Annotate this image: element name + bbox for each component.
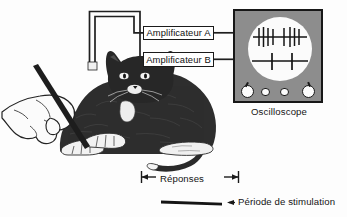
amplifier-a-label: Amplificateur A [146,27,210,38]
oscilloscope-screen [248,17,312,81]
figure-nerve-recording-diagram: Amplificateur A Amplificateur B [0,0,347,217]
amplifier-b-box: Amplificateur B [143,52,214,67]
amplifier-b-label: Amplificateur B [146,54,211,65]
stimulation-arrow-head [227,200,234,205]
oscilloscope-knob-small-right[interactable] [280,88,289,97]
cat-pupil-left [123,73,126,78]
cat-chest-patch [120,101,135,122]
oscilloscope-trace-b [252,53,308,70]
oscilloscope-knob-large-left[interactable] [241,85,254,98]
cat-tail-tip [147,164,158,170]
cat-pupil-right [144,73,147,78]
responses-arrow-right-head [232,174,239,180]
responses-label: Réponses [160,173,204,184]
oscilloscope-traces [248,17,312,81]
scope-input-wire-group [214,33,233,60]
oscilloscope-knob-small-left[interactable] [261,88,270,97]
stimulation-period-label: Période de stimulation [238,196,335,207]
cat-illustration [60,51,216,172]
cat-head-electrode [88,62,97,70]
amplifier-a-box: Amplificateur A [143,26,214,41]
oscilloscope-trace-a [253,27,307,47]
oscilloscope-unit [233,9,323,103]
oscilloscope-knob-large-right[interactable] [302,85,315,98]
oscilloscope-caption: Oscilloscope [232,106,326,117]
responses-arrow-left-head [142,174,149,180]
stimulation-period-bar [161,201,222,206]
